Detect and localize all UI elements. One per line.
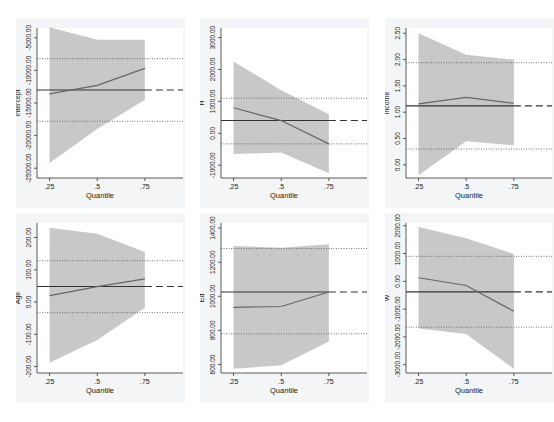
x-tick-label: .25	[45, 378, 55, 385]
y-tick-label: -200.00	[25, 355, 32, 377]
y-axis-title: Age	[16, 292, 22, 305]
y-tick-label: -25000.00	[25, 153, 32, 183]
y-tick-label: -100.00	[25, 323, 32, 345]
y-axis-title: Ed	[200, 294, 205, 303]
x-tick-label: .25	[229, 183, 239, 190]
y-tick-label: -5000.00	[25, 25, 32, 51]
chart-panel-ed: 600.00800.001000.001200.001400.00.25.5.7…	[200, 213, 369, 403]
y-tick-label: -1000.00	[394, 296, 401, 322]
y-tick-label: 0.00	[209, 127, 216, 140]
y-tick-label: 0.50	[394, 132, 401, 145]
y-tick-label: 600.00	[209, 354, 216, 374]
y-tick-label: -15000.00	[25, 88, 32, 118]
x-axis-title: Quantile	[455, 191, 483, 200]
x-tick-label: .25	[229, 378, 239, 385]
x-tick-label: .75	[140, 183, 150, 190]
y-tick-label: 0.00	[394, 275, 401, 288]
x-tick-label: .75	[324, 183, 334, 190]
x-tick-label: .5	[278, 378, 284, 385]
x-tick-label: .5	[463, 183, 469, 190]
y-tick-label: 1.50	[394, 79, 401, 92]
chart-panel-h: -1000.000.001000.002000.003000.00.25.5.7…	[200, 18, 369, 208]
x-tick-label: .5	[94, 378, 100, 385]
y-axis-title: Intercept	[16, 89, 22, 116]
y-tick-label: 2000.00	[209, 57, 216, 81]
y-tick-label: 0.00	[25, 295, 32, 308]
y-tick-label: -1000.00	[209, 152, 216, 178]
chart-panel-age: -200.00-100.000.00100.00200.00.25.5.75Qu…	[16, 213, 185, 403]
y-tick-label: 1200.00	[209, 250, 216, 274]
y-tick-label: 2.00	[394, 53, 401, 66]
y-tick-label: -2000.00	[394, 324, 401, 350]
y-tick-label: 1400.00	[209, 216, 216, 240]
y-axis-title: W	[385, 294, 390, 301]
y-tick-label: 1000.00	[394, 241, 401, 265]
x-axis-title: Quantile	[455, 386, 483, 395]
y-axis-title: H	[200, 100, 205, 105]
y-tick-label: 2.50	[394, 27, 401, 40]
y-tick-label: 1000.00	[209, 284, 216, 308]
y-axis-title: Income	[385, 91, 390, 114]
y-tick-label: 1000.00	[209, 89, 216, 113]
y-tick-label: -20000.00	[25, 121, 32, 151]
chart-panel-income: 0.000.501.001.502.002.50.25.5.75Quantile…	[385, 18, 554, 208]
y-tick-label: -3000.00	[394, 351, 401, 377]
x-tick-label: .5	[94, 183, 100, 190]
x-axis-title: Quantile	[86, 191, 114, 200]
x-tick-label: .75	[509, 378, 519, 385]
y-tick-label: 800.00	[209, 320, 216, 340]
x-axis-title: Quantile	[86, 386, 114, 395]
y-tick-label: 100.00	[25, 259, 32, 279]
x-tick-label: .5	[278, 183, 284, 190]
y-tick-label: 2000.00	[394, 214, 401, 238]
y-tick-label: 200.00	[25, 227, 32, 247]
x-tick-label: .75	[509, 183, 519, 190]
y-tick-label: -10000.00	[25, 55, 32, 85]
x-tick-label: .5	[463, 378, 469, 385]
x-tick-label: .25	[45, 183, 55, 190]
x-tick-label: .25	[414, 378, 424, 385]
y-tick-label: 3000.00	[209, 25, 216, 49]
x-axis-title: Quantile	[270, 386, 298, 395]
chart-panel-intercept: -25000.00-20000.00-15000.00-10000.00-500…	[16, 18, 185, 208]
x-tick-label: .75	[140, 378, 150, 385]
x-tick-label: .25	[414, 183, 424, 190]
y-tick-label: 1.00	[394, 106, 401, 119]
y-tick-label: 0.00	[394, 158, 401, 171]
chart-panel-w: -3000.00-2000.00-1000.000.001000.002000.…	[385, 213, 554, 403]
x-tick-label: .75	[324, 378, 334, 385]
x-axis-title: Quantile	[270, 191, 298, 200]
